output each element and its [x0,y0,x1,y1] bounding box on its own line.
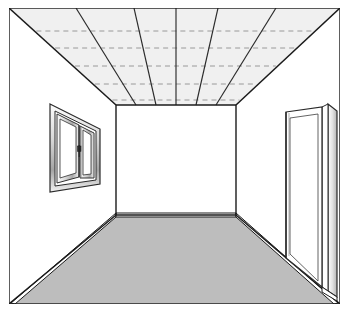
door-jamb-reveal [322,104,328,291]
door-jamb-outer [328,104,337,297]
back-wall-surface [116,105,236,215]
drawing-canvas [0,0,350,317]
window-sash-right-glass[interactable] [83,130,91,175]
door-leaf-panel [290,114,318,281]
room-perspective-illustration [0,0,350,317]
window-sash-left-glass[interactable] [60,119,76,178]
